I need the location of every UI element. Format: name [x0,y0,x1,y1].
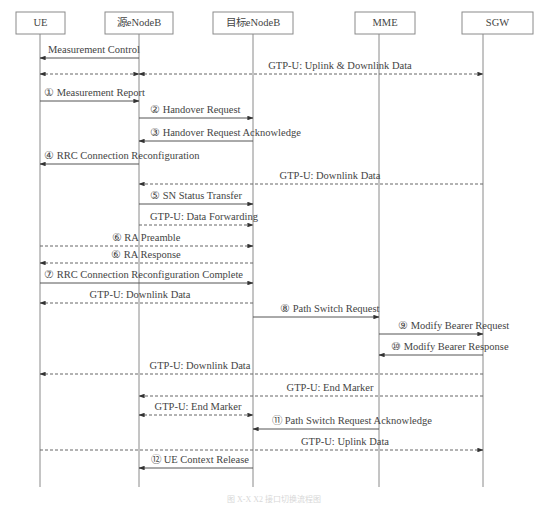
message: GTP-U: Data Forwarding [139,211,259,225]
message-label: Measurement Control [48,44,140,55]
message-label: GTP-U: End Marker [287,382,374,393]
message: GTP-U: End Marker [139,382,483,396]
actor-mme: MME [355,12,415,34]
message: GTP-U: Downlink Data [40,289,253,303]
actor-label: MME [372,17,397,28]
message-label: ⑪ Path Switch Request Acknowledge [272,415,432,426]
actor-tenb: 目标eNodeB [213,12,293,34]
message-label: ④ RRC Connection Reconfiguration [44,150,200,161]
message: GTP-U: End Marker [139,401,253,415]
message: ④ RRC Connection Reconfiguration [40,150,200,164]
message: ⑥ RA Response [40,249,253,263]
message: ⑪ Path Switch Request Acknowledge [253,415,432,429]
message-label: ⑥ RA Response [111,249,181,260]
message: GTP-U: Downlink Data [139,170,483,184]
message-label: ③ Handover Request Acknowledge [150,127,301,138]
message-label: ⑤ SN Status Transfer [150,190,242,201]
actor-ue: UE [16,12,65,34]
message: GTP-U: Uplink Data [40,436,483,450]
actor-senb: 源eNodeB [105,12,173,34]
message: GTP-U: Uplink & Downlink Data [139,60,483,74]
message-label: GTP-U: Uplink & Downlink Data [268,60,412,71]
actor-label: 目标eNodeB [226,17,280,28]
message: ⑤ SN Status Transfer [139,190,253,204]
message: ⑨ Modify Bearer Request [379,320,509,334]
message-label: GTP-U: Downlink Data [280,170,381,181]
message: ③ Handover Request Acknowledge [139,127,301,141]
message: GTP-U: Downlink Data [40,360,483,374]
message-label: GTP-U: End Marker [155,401,242,412]
message-label: ⑧ Path Switch Request [280,303,380,314]
message: Measurement Control [40,44,140,58]
messages: Measurement ControlGTP-U: Uplink & Downl… [40,44,509,468]
handover-sequence-diagram: UE源eNodeB目标eNodeBMMESGW Measurement Cont… [0,0,549,508]
message: ⑩ Modify Bearer Response [379,341,509,355]
message-label: ⑦ RRC Connection Reconfiguration Complet… [44,269,243,280]
message-label: ⑩ Modify Bearer Response [391,341,509,352]
message-label: ⑨ Modify Bearer Request [398,320,509,331]
message: ⑧ Path Switch Request [253,303,380,317]
message-label: GTP-U: Downlink Data [150,360,251,371]
message-label: GTP-U: Uplink Data [301,436,389,447]
message-label: ① Measurement Report [44,87,145,98]
message: ⑫ UE Context Release [139,454,253,468]
message: ⑥ RA Preamble [40,232,253,246]
actor-sgw: SGW [462,12,533,34]
message-label: ⑥ RA Preamble [112,232,181,243]
message-label: GTP-U: Data Forwarding [150,211,259,222]
actor-label: 源eNodeB [117,16,161,28]
actor-label: UE [34,17,48,28]
message: ⑦ RRC Connection Reconfiguration Complet… [40,269,253,283]
message: ① Measurement Report [40,87,145,101]
message-label: ⑫ UE Context Release [151,454,249,465]
actors: UE源eNodeB目标eNodeBMMESGW [16,12,533,34]
actor-label: SGW [486,17,509,28]
message: ② Handover Request [139,104,253,118]
message-label: ② Handover Request [150,104,241,115]
message-label: GTP-U: Downlink Data [90,289,191,300]
figure-caption: 图 X-X X2 接口切换流程图 [227,494,321,504]
